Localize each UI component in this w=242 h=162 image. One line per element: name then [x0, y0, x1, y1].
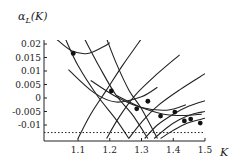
y-tick-label: 0.01: [21, 66, 41, 76]
y-tick-label: 0.005: [15, 80, 41, 90]
x-tick-label: 1.5: [198, 145, 213, 155]
x-tick-label: 1.1: [71, 145, 85, 155]
marked-point: [182, 119, 187, 124]
marked-point: [198, 121, 203, 126]
marked-point: [172, 110, 177, 115]
y-axis-title-rest: (K): [31, 10, 48, 23]
chart-figure: αL(K) K 0.020.0150.010.0050-0.005-0.01 1…: [0, 0, 242, 162]
marked-point: [134, 106, 139, 111]
y-axis-title: αL(K): [18, 10, 48, 25]
marked-point: [71, 51, 76, 56]
curve-branch-c: [107, 39, 158, 139]
y-tick-label: 0.015: [15, 53, 41, 63]
marked-point: [109, 89, 114, 94]
y-tick-label: 0: [35, 93, 41, 103]
x-tick-label: 1.2: [103, 145, 117, 155]
marked-point: [145, 99, 150, 104]
curve-branch-b: [84, 39, 147, 139]
curve-U-curve-1: [56, 39, 110, 54]
marked-point: [188, 117, 193, 122]
y-tick-label: -0.005: [12, 107, 41, 117]
x-axis-title: K: [219, 146, 229, 159]
y-axis-ticks: 0.020.0150.010.0050-0.005-0.01: [12, 39, 47, 130]
y-tick-label: -0.01: [18, 120, 41, 130]
marked-point: [158, 114, 163, 119]
x-tick-label: 1.4: [166, 145, 181, 155]
plot-area: [44, 39, 205, 139]
y-tick-label: 0.02: [21, 39, 41, 49]
x-tick-label: 1.3: [134, 145, 149, 155]
